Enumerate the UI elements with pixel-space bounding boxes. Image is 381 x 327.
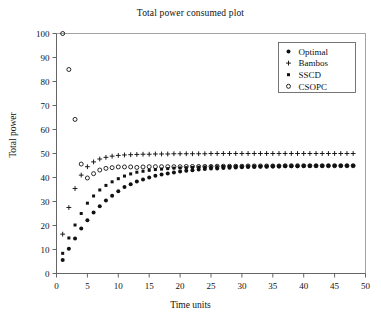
x-tick-label: 50 — [361, 281, 371, 291]
legend-entry-label: SSCD — [299, 70, 322, 80]
data-point — [104, 184, 107, 187]
data-point — [153, 174, 157, 178]
data-point — [135, 180, 139, 184]
data-point — [147, 152, 152, 157]
y-tick-label: 70 — [41, 101, 51, 111]
x-tick-label: 40 — [299, 281, 309, 291]
data-point — [122, 185, 126, 189]
chart-legend[interactable]: OptimalBambosSSCDCSOPC — [279, 43, 356, 93]
data-point — [67, 247, 71, 251]
y-tick-label: 50 — [41, 149, 51, 159]
filled-square-icon — [287, 73, 290, 76]
data-point — [67, 68, 71, 72]
x-tick-label: 30 — [237, 281, 247, 291]
data-point — [184, 169, 188, 173]
data-point — [141, 152, 146, 157]
data-point — [79, 173, 84, 178]
data-point — [147, 176, 151, 180]
data-point — [178, 151, 183, 156]
data-point — [73, 117, 77, 121]
y-tick-label: 80 — [41, 77, 51, 87]
legend-entry-label: Optimal — [299, 47, 329, 57]
data-point — [247, 164, 250, 167]
data-point — [86, 202, 89, 205]
data-point — [122, 153, 127, 158]
data-point — [172, 170, 176, 174]
data-point — [79, 227, 83, 231]
data-point — [116, 189, 120, 193]
data-point — [147, 165, 151, 169]
data-point — [91, 160, 96, 165]
series-sscd — [61, 164, 354, 255]
data-point — [134, 152, 139, 157]
data-point — [85, 164, 90, 169]
series-optimal — [61, 164, 355, 262]
data-point — [253, 164, 256, 167]
data-point — [98, 168, 102, 172]
data-point — [141, 177, 145, 181]
x-tick-label: 45 — [330, 281, 340, 291]
x-tick-label: 5 — [85, 281, 90, 291]
data-point — [202, 151, 207, 156]
data-point — [165, 152, 170, 157]
data-point — [233, 151, 238, 156]
data-point — [221, 151, 226, 156]
data-point — [351, 151, 356, 156]
data-point — [148, 169, 151, 172]
data-point — [314, 151, 319, 156]
x-tick-label: 15 — [145, 281, 155, 291]
data-point — [66, 205, 71, 210]
data-point — [104, 199, 108, 203]
data-point — [246, 151, 251, 156]
data-point — [307, 151, 312, 156]
data-point — [320, 151, 325, 156]
data-point — [264, 151, 269, 156]
y-tick-label: 60 — [41, 125, 51, 135]
plot-area: 0510152025303540455001020304050607080901… — [0, 0, 381, 327]
data-point — [332, 151, 337, 156]
data-point — [85, 176, 89, 180]
data-point — [73, 236, 77, 240]
data-point — [345, 151, 350, 156]
data-point — [159, 152, 164, 157]
x-tick-label: 25 — [207, 281, 217, 291]
data-point — [122, 165, 126, 169]
y-tick-label: 100 — [36, 29, 50, 39]
data-point — [104, 155, 109, 160]
data-point — [61, 258, 65, 262]
legend-entry-label: Bambos — [299, 58, 329, 68]
data-point — [270, 151, 275, 156]
data-point — [73, 186, 78, 191]
data-point — [129, 182, 133, 186]
data-point — [240, 151, 245, 156]
data-point — [111, 180, 114, 183]
data-point — [289, 151, 294, 156]
data-point — [259, 164, 262, 167]
x-tick-label: 10 — [114, 281, 124, 291]
data-point — [258, 151, 263, 156]
data-point — [98, 204, 102, 208]
data-point — [190, 151, 195, 156]
data-point — [227, 151, 232, 156]
data-point — [178, 170, 182, 174]
data-point — [110, 166, 114, 170]
data-point — [116, 153, 121, 158]
data-point — [79, 162, 83, 166]
data-point — [184, 151, 189, 156]
data-point — [265, 164, 268, 167]
filled-circle-icon — [287, 50, 291, 54]
data-point — [196, 151, 201, 156]
data-point — [74, 224, 77, 227]
data-point — [153, 152, 158, 157]
data-point — [277, 151, 282, 156]
data-point — [104, 166, 108, 170]
data-point — [60, 232, 65, 237]
data-point — [296, 164, 299, 167]
x-tick-label: 0 — [54, 281, 59, 291]
data-point — [92, 172, 96, 176]
data-point — [117, 177, 120, 180]
data-point — [209, 151, 214, 156]
data-point — [110, 194, 114, 198]
data-point — [284, 164, 287, 167]
data-point — [129, 165, 133, 169]
